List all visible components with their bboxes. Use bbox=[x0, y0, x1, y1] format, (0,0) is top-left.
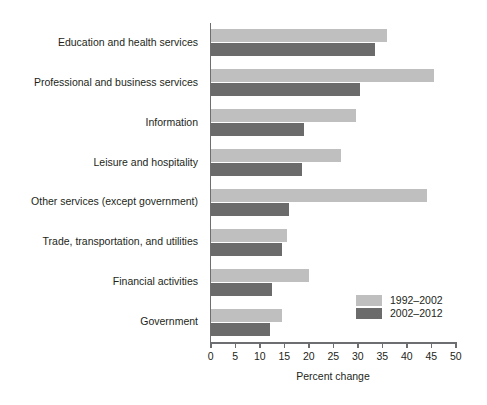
x-tick bbox=[455, 342, 457, 348]
x-tick bbox=[284, 342, 286, 348]
x-tick-label: 50 bbox=[441, 350, 471, 362]
bar-series1 bbox=[211, 149, 341, 162]
legend-label: 1992–2002 bbox=[390, 294, 443, 306]
x-tick bbox=[357, 342, 359, 348]
bar-series1 bbox=[211, 189, 427, 202]
legend-swatch-icon bbox=[356, 295, 382, 306]
bar-series2 bbox=[211, 83, 360, 96]
bar-series1 bbox=[211, 229, 287, 242]
x-tick bbox=[406, 342, 408, 348]
x-tick bbox=[382, 342, 384, 348]
bar-series2 bbox=[211, 123, 304, 136]
chart-legend: 1992–20022002–2012 bbox=[356, 294, 443, 320]
bar-series1 bbox=[211, 309, 282, 322]
category-label: Leisure and hospitality bbox=[0, 156, 198, 168]
bar-group bbox=[211, 109, 456, 137]
bar-series1 bbox=[211, 69, 434, 82]
bar-series2 bbox=[211, 323, 270, 336]
legend-item: 2002–2012 bbox=[356, 307, 443, 319]
bar-series2 bbox=[211, 203, 289, 216]
x-tick bbox=[235, 342, 237, 348]
x-tick bbox=[210, 342, 212, 348]
x-tick bbox=[259, 342, 261, 348]
category-label: Professional and business services bbox=[0, 76, 198, 88]
bar-series1 bbox=[211, 269, 309, 282]
bar-group bbox=[211, 29, 456, 57]
bar-chart: Education and health servicesProfessiona… bbox=[0, 0, 487, 405]
category-axis-labels: Education and health servicesProfessiona… bbox=[0, 23, 204, 342]
bar-group bbox=[211, 189, 456, 217]
x-tick bbox=[308, 342, 310, 348]
legend-swatch-icon bbox=[356, 308, 382, 319]
bar-group bbox=[211, 269, 456, 297]
bar-group bbox=[211, 229, 456, 257]
legend-label: 2002–2012 bbox=[390, 307, 443, 319]
bar-group bbox=[211, 149, 456, 177]
category-label: Other services (except government) bbox=[0, 195, 198, 207]
category-label: Trade, transportation, and utilities bbox=[0, 235, 198, 247]
bar-series2 bbox=[211, 163, 302, 176]
category-label: Information bbox=[0, 116, 198, 128]
bar-series1 bbox=[211, 29, 387, 42]
category-label: Education and health services bbox=[0, 36, 198, 48]
x-tick bbox=[431, 342, 433, 348]
category-label: Financial activities bbox=[0, 275, 198, 287]
x-tick bbox=[333, 342, 335, 348]
legend-item: 1992–2002 bbox=[356, 294, 443, 306]
bar-series2 bbox=[211, 283, 272, 296]
bar-group bbox=[211, 69, 456, 97]
bar-series1 bbox=[211, 109, 356, 122]
x-axis-title: Percent change bbox=[210, 370, 456, 382]
category-label: Government bbox=[0, 315, 198, 327]
bar-series2 bbox=[211, 243, 282, 256]
bar-series2 bbox=[211, 43, 375, 56]
